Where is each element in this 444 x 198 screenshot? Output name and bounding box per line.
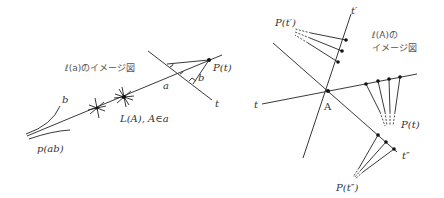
right-angle-mark [189,78,196,81]
label-line-t: t [254,99,259,110]
line-t-prime [303,14,351,158]
label-line-t: t [215,98,220,109]
angle-mark-upper [170,64,173,67]
label-point-a: A [323,101,332,112]
left-diagram: b p(ab) L(A), A∈a a b P(t) t ℓ(a)のイメージ図 [26,51,232,154]
label-p-t-prime: P(t′) [274,17,296,28]
diagram-canvas: b p(ab) L(A), A∈a a b P(t) t ℓ(a)のイメージ図 [0,0,444,198]
label-line-t-dprime: t″ [402,150,410,161]
star-icon [114,87,134,107]
line-t [262,74,417,104]
label-star: L(A), A∈a [119,113,169,124]
label-perp-b: b [198,72,204,83]
point-a [326,89,330,93]
label-curve-pab: p(ab) [37,143,64,154]
right-caption-line1: ℓ(A)の [371,30,398,40]
fan-p-t-dprime [353,133,396,179]
label-curve-b: b [62,94,68,105]
right-caption-line2: イメージ図 [372,43,417,53]
label-line-a: a [163,80,169,91]
label-point-p: P(t) [212,62,232,73]
curve-pab [29,130,70,139]
point-p [207,58,211,62]
star-icon [88,98,106,118]
label-p-t: P(t) [400,119,420,130]
left-caption: ℓ(a)のイメージ図 [64,63,135,73]
label-line-t-prime: t′ [351,5,358,16]
right-diagram: A t t′ t″ P(t) P(t′) P(t″) ℓ(A)の イメージ図 [254,5,420,193]
label-p-t-dprime: P(t″) [335,182,358,193]
